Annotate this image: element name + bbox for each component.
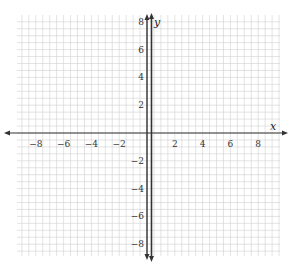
x-tick-label: 6: [228, 139, 234, 149]
graphed-line: [149, 13, 154, 262]
x-axis-label: x: [270, 120, 277, 133]
y-tick-label: −4: [131, 184, 145, 194]
grid: [17, 15, 280, 256]
x-tick-label: −8: [29, 139, 43, 149]
x-tick-label: 2: [172, 139, 178, 149]
x-tick-label: 8: [255, 139, 261, 149]
y-axis-label: y: [153, 16, 161, 29]
x-tick-label: −6: [57, 139, 71, 149]
coordinate-plane: −8−6−4−224688642−2−4−6−8 x y: [0, 0, 294, 265]
y-tick-label: 6: [138, 45, 144, 55]
x-tick-label: −4: [85, 139, 99, 149]
x-tick-label: −2: [113, 139, 126, 149]
y-tick-label: 8: [138, 17, 144, 27]
y-tick-label: −2: [131, 156, 144, 166]
y-tick-label: −8: [131, 239, 145, 249]
x-tick-label: 4: [200, 139, 206, 149]
y-tick-label: −6: [131, 211, 145, 221]
y-tick-label: 4: [138, 72, 144, 82]
y-tick-label: 2: [138, 100, 144, 110]
